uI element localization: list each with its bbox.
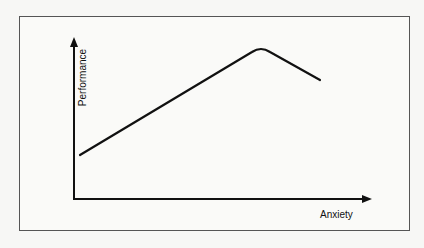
- performance-curve: [80, 49, 320, 155]
- x-axis: [73, 195, 372, 203]
- diagram-canvas: [0, 0, 424, 248]
- y-axis-label: Performance: [77, 49, 88, 106]
- x-axis-label: Anxiety: [320, 209, 353, 220]
- y-axis-arrow-icon: [70, 37, 78, 47]
- x-axis-arrow-icon: [362, 195, 372, 203]
